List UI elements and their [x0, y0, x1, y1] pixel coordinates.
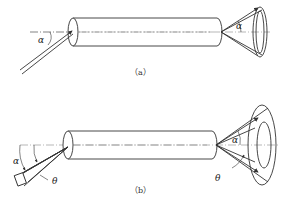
- panel-a-alpha-left: α: [38, 36, 44, 45]
- panel-b-caption: （b）: [130, 184, 151, 195]
- panel-b-alpha-left: α: [13, 157, 19, 166]
- panel-b-alpha-right: α: [232, 136, 238, 145]
- fiber-optics-diagram: [0, 0, 297, 210]
- panel-b-fiber: [14, 105, 280, 186]
- panel-a-fiber: [20, 7, 270, 74]
- panel-b-theta-right: θ: [215, 174, 220, 183]
- panel-b-theta-left: θ: [52, 177, 57, 186]
- panel-a-caption: （a）: [130, 66, 151, 77]
- panel-a-alpha-right: α: [236, 22, 242, 31]
